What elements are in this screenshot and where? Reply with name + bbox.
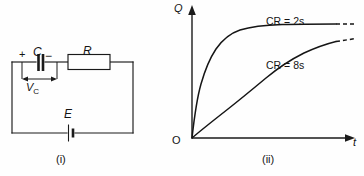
- y-axis-label: Q: [174, 3, 183, 14]
- curve-label-cr-8s: CR = 8s: [266, 60, 304, 71]
- vc-arrowhead-right: [51, 76, 57, 81]
- resistor-label: R: [83, 45, 92, 57]
- curve-cr-8s-dashed-extension: [336, 39, 356, 42]
- capacitor-minus-sign: −: [45, 50, 52, 62]
- capacitor-label: C: [33, 46, 42, 58]
- y-axis-arrowhead: [188, 5, 196, 15]
- battery-label: E: [64, 108, 72, 120]
- capacitor-plus-sign: +: [19, 49, 25, 60]
- figure-root: + C − VC R E (i) Q t O CR = 2s: [0, 0, 364, 176]
- origin-label: O: [172, 135, 181, 146]
- x-axis-label: t: [353, 137, 356, 148]
- charge-vs-time-graph: Q t O CR = 2s CR = 8s (ii): [170, 0, 364, 176]
- caption-panel-ii: (ii): [262, 154, 274, 165]
- capacitor-voltage-label: VC: [26, 82, 39, 96]
- caption-panel-i: (i): [56, 154, 66, 165]
- rc-circuit-diagram: + C − VC R E (i): [0, 0, 176, 176]
- curve-label-cr-2s: CR = 2s: [266, 16, 304, 27]
- vc-subscript: C: [33, 87, 39, 96]
- curve-cr-8s: [192, 42, 336, 139]
